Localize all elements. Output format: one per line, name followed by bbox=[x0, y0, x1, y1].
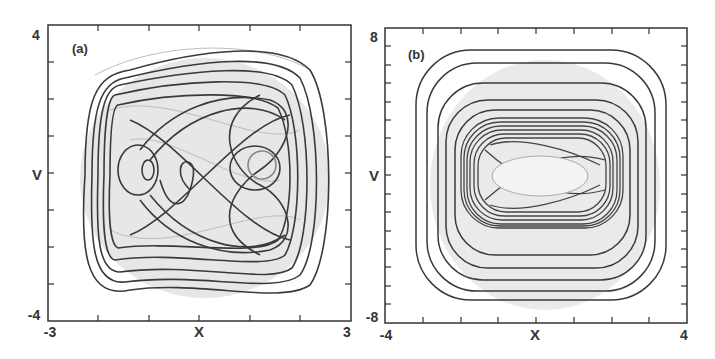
panel-b-xmin: -4 bbox=[380, 327, 393, 343]
panel-a-xmin: -3 bbox=[44, 324, 57, 340]
panel-a-ylabel: V bbox=[32, 166, 42, 183]
panel-a-label: (a) bbox=[72, 41, 88, 56]
figure: (a) 4 -4 V -3 3 X bbox=[0, 0, 715, 359]
panel-b-core-void bbox=[492, 156, 588, 196]
panel-a-ymin: -4 bbox=[28, 307, 41, 323]
panel-a-ymax: 4 bbox=[32, 27, 40, 43]
panel-a-xlabel: X bbox=[194, 323, 204, 340]
panel-b: (b) 8 -8 V -4 4 X bbox=[366, 28, 688, 343]
panel-b-ymin: -8 bbox=[366, 309, 379, 325]
panel-b-label: (b) bbox=[408, 47, 425, 62]
panel-b-ylabel: V bbox=[369, 167, 379, 184]
panel-a-xmax: 3 bbox=[343, 324, 351, 340]
panel-b-xmax: 4 bbox=[680, 327, 688, 343]
panel-a: (a) 4 -4 V -3 3 X bbox=[28, 25, 351, 340]
panel-b-ymax: 8 bbox=[370, 29, 378, 45]
panel-b-xlabel: X bbox=[530, 326, 540, 343]
